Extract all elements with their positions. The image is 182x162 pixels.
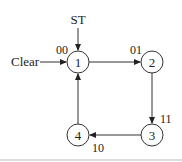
state-diagram: ST Clear 1 00 2 01 3 11 4 10 [0, 0, 182, 162]
state-2-code: 01 [130, 43, 142, 57]
state-2: 2 01 [130, 43, 163, 73]
clear-input-label: Clear [11, 54, 40, 69]
state-3-code: 11 [160, 112, 172, 126]
state-4: 4 10 [67, 124, 104, 155]
state-3: 3 11 [141, 112, 172, 146]
state-4-label: 4 [75, 128, 82, 143]
state-3-label: 3 [149, 128, 156, 143]
start-input-label: ST [70, 12, 85, 27]
state-1-code: 00 [56, 43, 68, 57]
state-1: 1 00 [56, 43, 89, 73]
state-1-label: 1 [75, 55, 82, 70]
state-4-code: 10 [92, 141, 104, 155]
state-2-label: 2 [149, 55, 156, 70]
